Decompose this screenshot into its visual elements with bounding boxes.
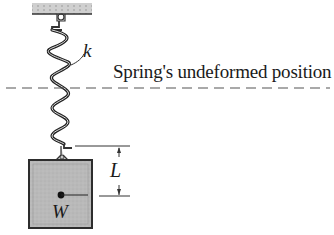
spring-mass-diagram: k Spring's undeformed position L W [0, 0, 334, 235]
displacement-label: L [110, 159, 121, 182]
top-mount-hook [52, 14, 65, 30]
diagram-graphics [0, 0, 334, 235]
weight-label: W [52, 201, 68, 223]
spring-constant-label: k [83, 40, 91, 62]
ceiling-support [32, 3, 92, 14]
undeformed-position-label: Spring's undeformed position [113, 61, 331, 83]
bottom-hook [56, 144, 72, 160]
spring-coil [48, 30, 69, 144]
